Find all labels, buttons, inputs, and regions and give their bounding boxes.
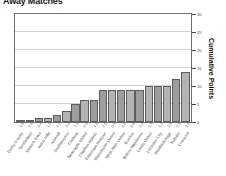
bar [163,86,171,122]
y-axis-tick [192,14,196,15]
y-axis-title: Cumulative Points [206,13,218,123]
bar [117,90,125,122]
bar [90,100,98,122]
bar [154,86,162,122]
bar [108,90,116,122]
chart-root: Away Matches 051015202530 Cumulative Poi… [0,0,226,176]
y-axis-tick-label: 15 [197,66,201,71]
x-axis-label-cell: 0.4Ipswich Town [34,124,43,176]
bar [53,115,61,122]
y-axis-tick-label: 10 [197,84,201,89]
y-axis-tick-label: 0 [197,120,199,125]
bar [71,104,79,122]
bar [145,86,153,122]
x-axis-label-cell: 1.1Aston Villa [43,124,52,176]
y-axis-tick [192,122,196,123]
x-axis-label-cell: 0.1Fulham [173,124,182,176]
chart-title: Away Matches [3,0,62,6]
x-axis-label-cell: 2.1Liverpool [182,124,191,176]
y-axis-title-label: Cumulative Points [209,37,216,98]
x-axis-labels: 1.0Derby County2.0Sunderland0.4Ipswich T… [14,124,192,176]
bar [135,90,143,122]
y-axis-tick [192,104,196,105]
bar [181,72,189,122]
x-axis-label-cell: 1.5Middlesbrough [163,124,172,176]
x-axis-label-cell: 0.2West Ham United [117,124,126,176]
bar [126,90,134,122]
y-axis: 051015202530 [192,13,204,123]
plot-area [14,13,192,123]
y-axis-tick-label: 20 [197,48,201,53]
y-axis-tick-label: 25 [197,30,201,35]
y-axis-tick-label: 30 [197,12,201,17]
bar [99,90,107,122]
x-axis-point-label: 2.1 [185,122,191,128]
y-axis-tick [192,86,196,87]
y-axis-tick [192,50,196,51]
bar [62,111,70,122]
bar [80,100,88,122]
bar-series [15,14,191,122]
y-axis-tick [192,68,196,69]
y-axis-tick [192,32,196,33]
y-axis-tick-label: 5 [197,102,199,107]
bar [172,79,180,122]
